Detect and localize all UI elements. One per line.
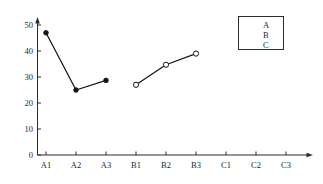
y-tick-label: 40	[25, 46, 34, 56]
legend-label-c: C	[263, 40, 269, 50]
chart-legend: A B C	[239, 17, 284, 50]
y-axis	[35, 17, 40, 155]
y-tick-labels: 50 40 30 20 10 0	[25, 20, 34, 160]
y-tick-marks	[38, 25, 42, 155]
x-tick-label: C2	[251, 160, 261, 170]
series-a	[44, 31, 109, 93]
legend-label-b: B	[263, 30, 269, 40]
series-line-a	[46, 33, 106, 90]
data-point-a	[44, 31, 49, 36]
y-tick-label: 20	[25, 98, 34, 108]
x-tick-label: C3	[281, 160, 291, 170]
legend-box	[239, 17, 284, 50]
series-b	[133, 51, 198, 87]
x-tick-label: A3	[101, 160, 111, 170]
x-tick-labels: A1 A2 A3 B1 B2 B3 C1 C2 C3	[41, 160, 291, 170]
x-tick-label: C1	[221, 160, 231, 170]
data-point-a	[74, 88, 79, 93]
x-tick-label: B1	[131, 160, 141, 170]
data-point-a	[104, 78, 109, 83]
data-point-b	[163, 62, 168, 67]
y-axis-arrow-icon	[35, 17, 40, 24]
x-tick-label: A1	[41, 160, 51, 170]
x-axis	[38, 153, 314, 158]
data-point-b	[133, 82, 138, 87]
line-chart-plot: 50 40 30 20 10 0 A1 A2 A3 B1 B2 B3	[0, 0, 323, 184]
x-tick-label: A2	[71, 160, 81, 170]
x-tick-label: B2	[161, 160, 171, 170]
chart-container: 50 40 30 20 10 0 A1 A2 A3 B1 B2 B3	[0, 0, 323, 184]
x-axis-arrow-icon	[307, 153, 314, 158]
y-tick-label: 50	[25, 20, 34, 30]
data-series-layer	[44, 31, 199, 93]
x-tick-label: B3	[191, 160, 201, 170]
y-tick-label: 0	[29, 150, 33, 160]
y-tick-label: 10	[25, 124, 34, 134]
x-tick-marks	[46, 152, 286, 156]
y-tick-label: 30	[25, 72, 34, 82]
series-line-b	[136, 54, 196, 85]
data-point-b	[193, 51, 198, 56]
legend-label-a: A	[263, 20, 270, 30]
